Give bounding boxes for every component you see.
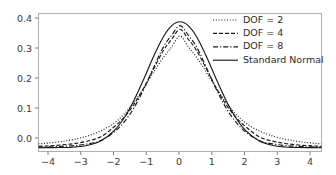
figure-background	[0, 0, 336, 175]
legend-label-2: DOF = 4	[243, 27, 283, 38]
x-tick-label-4: 0	[176, 156, 182, 167]
x-tick-label-0: −4	[41, 156, 55, 167]
y-tick-label-0: 0.0	[17, 133, 32, 144]
x-tick-label-8: 4	[307, 156, 313, 167]
x-tick-label-2: −2	[106, 156, 120, 167]
y-tick-label-4: 0.4	[17, 13, 32, 24]
chart-figure: 0.0 0.1 0.2 0.3 0.4 −4 −3 −2 −1 0 1 2	[0, 0, 336, 175]
y-tick-label-3: 0.3	[17, 43, 32, 54]
legend-label-3: DOF = 8	[243, 40, 283, 51]
x-tick-label-7: 3	[274, 156, 280, 167]
x-tick-label-5: 1	[209, 156, 215, 167]
legend-label-1: DOF = 2	[243, 14, 283, 25]
x-tick-label-1: −3	[74, 156, 88, 167]
y-tick-label-2: 0.2	[17, 73, 32, 84]
x-tick-label-6: 2	[241, 156, 247, 167]
legend-label-4: Standard Normal	[243, 54, 324, 65]
y-tick-label-1: 0.1	[17, 103, 32, 114]
distribution-plot: 0.0 0.1 0.2 0.3 0.4 −4 −3 −2 −1 0 1 2	[0, 0, 336, 175]
x-tick-label-3: −1	[139, 156, 153, 167]
